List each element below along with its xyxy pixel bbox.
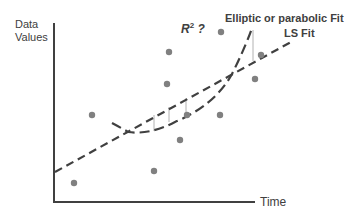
ls-fit-line (55, 42, 291, 172)
ls-fit-label: LS Fit (284, 27, 315, 40)
elliptic-fit-label: Elliptic or parabolic Fit (225, 12, 344, 25)
r-squared-annotation: R2 ? (181, 19, 205, 36)
parabolic-fit-curve (112, 28, 252, 133)
residual-lines (154, 30, 253, 131)
r2-question: ? (194, 22, 205, 36)
y-axis-label: Data Values (15, 18, 48, 44)
data-points (71, 29, 264, 186)
y-axis-label-line2: Values (15, 31, 48, 44)
y-axis-label-line1: Data (15, 18, 48, 31)
x-axis-label: Time (260, 196, 286, 209)
r2-r: R (181, 22, 190, 36)
